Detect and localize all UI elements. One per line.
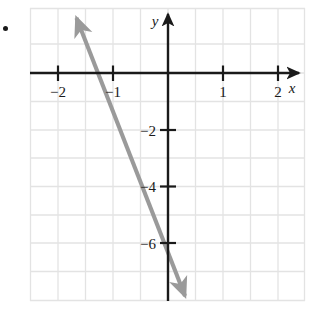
x-tick-label-neg2: −2 (50, 84, 66, 100)
y-tick-label-neg2: −2 (140, 123, 156, 139)
graph-figure: −2 −1 1 2 −2 −4 −6 x y (0, 0, 316, 327)
x-axis-label: x (288, 80, 296, 96)
x-tick-label-2: 2 (274, 84, 282, 100)
x-tick-label-neg1: −1 (105, 84, 121, 100)
y-tick-label-neg4: −4 (140, 179, 156, 195)
coordinate-plane: −2 −1 1 2 −2 −4 −6 x y (0, 0, 316, 327)
y-tick-label-neg6: −6 (140, 236, 156, 252)
y-axis-label: y (150, 13, 159, 29)
x-tick-label-1: 1 (219, 84, 227, 100)
